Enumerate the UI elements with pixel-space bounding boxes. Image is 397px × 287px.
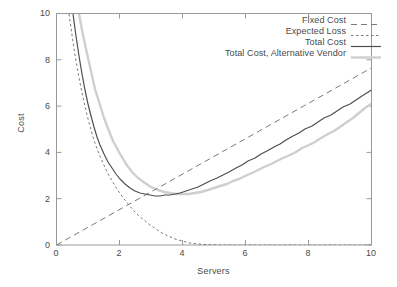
x-axis-title: Servers bbox=[56, 266, 371, 276]
legend-item-total-cost: Total Cost bbox=[196, 36, 381, 47]
dashed-line-sample bbox=[351, 15, 381, 24]
x-tick-label-10: 10 bbox=[359, 248, 383, 258]
y-axis-title: Cost bbox=[16, 93, 26, 153]
x-tick-label-4: 4 bbox=[170, 248, 194, 258]
x-tick-label-8: 8 bbox=[296, 248, 320, 258]
dotted-line-sample bbox=[351, 26, 381, 35]
legend-item-expected-loss: Expected Loss bbox=[196, 25, 381, 36]
legend-label-total-cost-alternative-vendor: Total Cost, Alternative Vendor bbox=[225, 48, 346, 58]
legend-label-total-cost: Total Cost bbox=[305, 37, 346, 47]
solid-line-sample bbox=[351, 37, 381, 46]
legend-label-expected-loss: Expected Loss bbox=[286, 26, 346, 36]
x-tick-label-2: 2 bbox=[107, 248, 131, 258]
light-solid-line-sample bbox=[351, 48, 381, 57]
y-tick-label-8: 8 bbox=[28, 55, 50, 65]
x-tick-label-6: 6 bbox=[233, 248, 257, 258]
x-tick-label-0: 0 bbox=[44, 248, 68, 258]
chart-figure: 0 2 4 6 8 10 0 2 4 6 8 10 Cost Servers F… bbox=[0, 0, 397, 287]
chart-legend: Fixed Cost Expected Loss Total Cost bbox=[196, 14, 381, 59]
y-tick-label-4: 4 bbox=[28, 147, 50, 157]
y-tick-label-10: 10 bbox=[28, 8, 50, 18]
y-tick-label-6: 6 bbox=[28, 101, 50, 111]
y-tick-label-2: 2 bbox=[28, 194, 50, 204]
legend-item-total-cost-alternative-vendor: Total Cost, Alternative Vendor bbox=[196, 47, 381, 58]
legend-label-fixed-cost: Fixed Cost bbox=[302, 15, 346, 25]
series-fixed-cost bbox=[57, 68, 372, 245]
legend-item-fixed-cost: Fixed Cost bbox=[196, 14, 381, 25]
